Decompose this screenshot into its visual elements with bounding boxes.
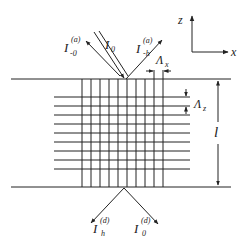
reflected-specular-subscript: -0 [70,49,77,58]
coordinate-axes: z x [177,13,237,59]
transmitted-beams: I (d) h I (d) 0 [91,188,158,238]
transmitted-diffracted-superscript: (d) [100,216,110,225]
diffraction-diagram: z x Λ x Λ z [0,0,244,238]
reflected-diffracted-subscript: -h [143,49,150,58]
reflected-diffracted-superscript: (a) [143,36,153,45]
incident-beam-subscript: 0 [111,45,115,54]
reflected-specular-symbol: I [63,40,69,55]
period-z-symbol: Λ [193,97,202,111]
period-x-symbol: Λ [155,53,164,67]
z-axis-label: z [177,13,183,27]
x-axis-label: x [230,45,237,59]
grating-horizontal-lines [54,97,190,169]
reflected-specular-superscript: (a) [71,35,81,44]
incident-beam-symbol: I [104,37,110,52]
period-x-dimension: Λ x [146,53,171,71]
transmitted-direct-subscript: 0 [142,229,146,238]
thickness-dimension: l [214,81,218,185]
reflected-diffracted-symbol: I [135,41,141,56]
transmitted-diffracted-symbol: I [92,221,98,236]
reflected-beam-specular: I (a) -0 [63,35,120,76]
period-z-subscript: z [202,104,207,113]
thickness-label: l [214,124,218,140]
period-z-dimension: Λ z [186,89,207,114]
transmitted-direct-symbol: I [133,221,139,236]
transmitted-diffracted-subscript: h [101,229,105,238]
transmitted-direct-superscript: (d) [141,216,151,225]
period-x-subscript: x [164,60,169,69]
